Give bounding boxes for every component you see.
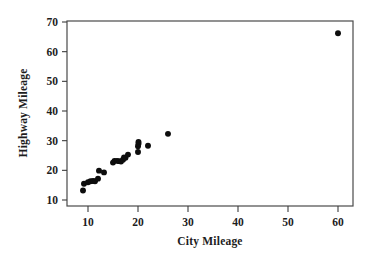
scatter-plot-figure: 10203040506070 102030405060 City Mileage…	[0, 0, 372, 260]
y-tick-label-70: 70	[47, 16, 59, 28]
x-tick-label-50: 50	[282, 216, 294, 228]
data-point	[136, 139, 142, 145]
data-point	[95, 176, 101, 182]
y-tick-label-30: 30	[47, 135, 59, 147]
y-tick-label-10: 10	[47, 194, 59, 206]
data-point	[335, 30, 341, 36]
scatter-points-group	[80, 30, 341, 193]
x-tick-label-10: 10	[82, 216, 94, 228]
data-point	[125, 152, 131, 158]
y-axis-tick-labels: 10203040506070	[47, 16, 59, 206]
x-axis-tick-labels: 102030405060	[82, 216, 344, 228]
plot-frame	[67, 21, 353, 206]
chart-canvas: 10203040506070 102030405060 City Mileage…	[0, 0, 372, 260]
x-tick-label-20: 20	[132, 216, 144, 228]
x-tick-label-60: 60	[332, 216, 344, 228]
y-tick-label-60: 60	[47, 46, 59, 58]
data-point	[145, 143, 151, 149]
y-tick-label-20: 20	[47, 164, 59, 176]
y-tick-label-50: 50	[47, 75, 59, 87]
x-tick-label-40: 40	[232, 216, 244, 228]
y-axis-title: Highway Mileage	[17, 69, 30, 158]
x-axis-ticks	[88, 206, 338, 212]
data-point	[135, 149, 141, 155]
data-point	[165, 131, 171, 137]
x-tick-label-30: 30	[182, 216, 194, 228]
y-tick-label-40: 40	[47, 105, 59, 117]
y-axis-ticks	[62, 22, 67, 200]
x-axis-title: City Mileage	[177, 235, 242, 248]
data-point	[101, 169, 107, 175]
data-point	[80, 188, 86, 194]
